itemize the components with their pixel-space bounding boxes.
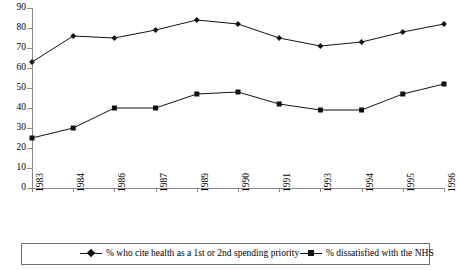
data-point-marker: [236, 90, 241, 95]
chart-legend: % who cite health as a 1st or 2nd spendi…: [21, 243, 430, 265]
data-point-marker: [442, 82, 447, 87]
data-point-marker: [318, 43, 324, 49]
data-point-marker: [153, 106, 158, 111]
legend-label-spending-priority: % who cite health as a 1st or 2nd spendi…: [106, 248, 299, 259]
data-point-marker: [29, 59, 35, 65]
data-point-marker: [112, 106, 117, 111]
data-point-marker: [194, 92, 199, 97]
legend-entry-spending-priority: % who cite health as a 1st or 2nd spendi…: [80, 248, 299, 259]
legend-label-nhs-dissatisfaction: % dissatisfied with the NHS: [326, 248, 434, 259]
data-point-marker: [71, 126, 76, 131]
data-point-marker: [276, 35, 282, 41]
data-point-marker: [153, 27, 159, 33]
series-layer: [0, 0, 452, 196]
data-point-marker: [441, 21, 447, 27]
square-marker-icon: [300, 249, 322, 258]
data-point-marker: [112, 35, 118, 41]
legend-entry-nhs-dissatisfaction: % dissatisfied with the NHS: [300, 248, 434, 259]
diamond-marker-icon: [80, 249, 102, 258]
data-point-marker: [359, 108, 364, 113]
data-point-marker: [318, 108, 323, 113]
data-point-marker: [400, 92, 405, 97]
data-point-marker: [359, 39, 365, 45]
data-point-marker: [235, 21, 241, 27]
plot-area: 0102030405060708090 19831984198619871989…: [0, 0, 452, 196]
data-point-marker: [400, 29, 406, 35]
data-point-marker: [277, 102, 282, 107]
data-point-marker: [70, 33, 76, 39]
data-point-marker: [194, 17, 200, 23]
data-point-marker: [30, 136, 35, 141]
